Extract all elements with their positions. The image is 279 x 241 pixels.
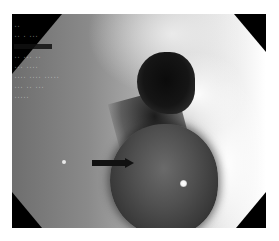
overlay-line: ··· ·· ··· xyxy=(14,85,54,90)
light-reflection xyxy=(180,180,187,187)
arrow-annotation-icon xyxy=(92,159,134,167)
overlay-line: ·· · ··· xyxy=(14,34,54,39)
corner-mask-bottom-left xyxy=(12,192,42,228)
overlay-line: ·· ··· ·· xyxy=(14,55,54,60)
corner-mask-bottom-right xyxy=(236,192,266,228)
rounded-mass xyxy=(110,124,218,228)
corner-mask-top-right xyxy=(234,14,266,52)
overlay-line: ·· xyxy=(14,24,54,29)
overlay-line: ··· ···· xyxy=(14,65,54,70)
overlay-redacted-bar xyxy=(14,44,54,50)
light-reflection-small xyxy=(62,160,66,164)
device-info-overlay: ·· ·· · ··· ·· ··· ·· ··· ···· ···· ····… xyxy=(14,24,54,105)
arrow-head xyxy=(125,158,134,168)
overlay-line: ···· ···· ····· xyxy=(14,75,54,80)
lumen-opening xyxy=(137,52,195,114)
arrow-shaft xyxy=(92,160,126,166)
overlay-line: ····· xyxy=(14,95,54,100)
endoscopy-image: ·· ·· · ··· ·· ··· ·· ··· ···· ···· ····… xyxy=(12,14,266,228)
